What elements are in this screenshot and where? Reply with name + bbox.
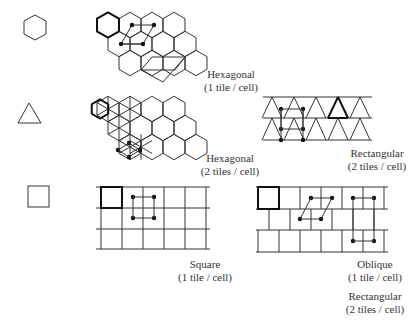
hexagon-icon bbox=[24, 15, 46, 40]
label-title: Hexagonal bbox=[196, 68, 266, 81]
label-subtitle: (1 tile / cell) bbox=[196, 81, 266, 94]
square-icon bbox=[28, 186, 49, 207]
hex-grid-1 bbox=[97, 12, 207, 82]
label-oblique: Oblique (1 tile / cell) bbox=[338, 258, 412, 284]
hex-grid-2 bbox=[92, 96, 207, 159]
label-title: Oblique bbox=[338, 258, 412, 271]
label-rectangular-brick: Rectangular (2 tiles / cell) bbox=[338, 290, 412, 316]
brick-grid bbox=[256, 187, 388, 252]
triangle-icon bbox=[18, 103, 41, 123]
square-grid bbox=[96, 187, 210, 249]
label-title: Square bbox=[168, 258, 242, 271]
label-hexagonal-1: Hexagonal (1 tile / cell) bbox=[196, 68, 266, 94]
label-subtitle: (1 tile / cell) bbox=[338, 271, 412, 284]
label-title: Rectangular bbox=[338, 290, 412, 303]
triangle-strip bbox=[262, 97, 372, 142]
label-hexagonal-2: Hexagonal (2 tiles / cell) bbox=[190, 152, 270, 178]
label-subtitle: (2 tiles / cell) bbox=[190, 165, 270, 178]
label-title: Rectangular bbox=[340, 147, 414, 160]
label-subtitle: (2 tiles / cell) bbox=[338, 303, 412, 316]
label-square: Square (1 tile / cell) bbox=[168, 258, 242, 284]
label-rectangular-tri: Rectangular (2 tiles / cell) bbox=[340, 147, 414, 173]
label-subtitle: (2 tiles / cell) bbox=[340, 160, 414, 173]
label-title: Hexagonal bbox=[190, 152, 270, 165]
label-subtitle: (1 tile / cell) bbox=[168, 271, 242, 284]
